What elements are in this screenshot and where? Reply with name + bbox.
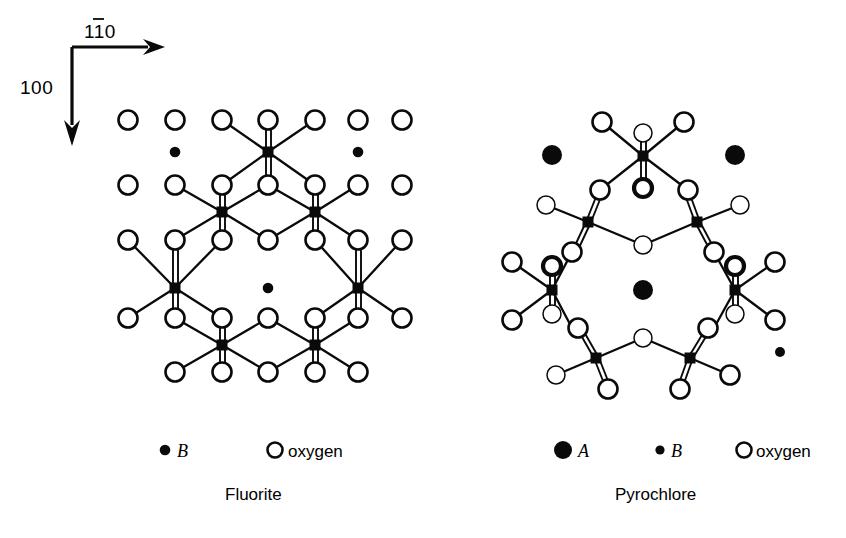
oxygen-atom bbox=[259, 231, 278, 250]
axis-indicator: 110 100 bbox=[20, 19, 165, 146]
b-cation-site bbox=[730, 285, 741, 296]
oxygen-atom bbox=[306, 363, 325, 382]
oxygen-atom bbox=[213, 176, 232, 195]
oxygen-atom bbox=[306, 176, 325, 195]
oxygen-atom bbox=[721, 366, 740, 385]
oxygen-atom bbox=[393, 176, 412, 195]
oxygen-atom-upper bbox=[543, 257, 561, 275]
b-cation-site bbox=[217, 340, 228, 351]
a-cation-site bbox=[542, 145, 562, 165]
oxygen-atom bbox=[213, 111, 232, 130]
oxygen-atom-lower bbox=[726, 305, 744, 323]
oxygen-atom bbox=[503, 253, 522, 272]
oxygen-atom bbox=[306, 111, 325, 130]
legend-a-label: A bbox=[577, 441, 590, 461]
oxygen-atom bbox=[349, 176, 368, 195]
b-cation-site-isolated bbox=[353, 147, 364, 158]
oxygen-atom bbox=[503, 311, 522, 330]
oxygen-atom bbox=[349, 363, 368, 382]
axis-vertical-label: 100 bbox=[20, 77, 53, 98]
oxygen-atom bbox=[259, 176, 278, 195]
pyrochlore-structure bbox=[503, 113, 786, 399]
oxygen-atom bbox=[593, 113, 612, 132]
oxygen-atom bbox=[671, 380, 690, 399]
b-cation-site bbox=[170, 283, 181, 294]
legend-oxygen-label: oxygen bbox=[756, 442, 811, 461]
b-cation-site-isolated bbox=[775, 347, 785, 357]
b-cation-site bbox=[353, 283, 364, 294]
oxygen-atom bbox=[213, 363, 232, 382]
oxygen-atom bbox=[259, 111, 278, 130]
legend-b-dot-icon bbox=[160, 445, 171, 456]
oxygen-atom-lower bbox=[634, 179, 652, 197]
legend-b-label: B bbox=[177, 441, 188, 461]
oxygen-atom bbox=[349, 231, 368, 250]
axis-horizontal-label: 110 bbox=[84, 21, 116, 42]
oxygen-atom bbox=[119, 176, 138, 195]
oxygen-atom bbox=[166, 231, 185, 250]
oxygen-atom bbox=[166, 363, 185, 382]
b-cation-site bbox=[638, 151, 649, 162]
b-cation-site bbox=[217, 207, 228, 218]
oxygen-atom bbox=[766, 253, 785, 272]
oxygen-atom-upper bbox=[726, 257, 744, 275]
pyrochlore-a-sites bbox=[542, 145, 745, 300]
fluorite-structure bbox=[119, 111, 412, 382]
b-cation-site-isolated bbox=[263, 283, 274, 294]
legend-oxygen-circle-icon bbox=[268, 443, 283, 458]
oxygen-atom bbox=[731, 196, 749, 214]
oxygen-atom bbox=[213, 309, 232, 328]
legend-oxygen-circle-icon bbox=[737, 443, 752, 458]
oxygen-atom bbox=[393, 309, 412, 328]
oxygen-atom-lower bbox=[543, 305, 561, 323]
b-cation-site bbox=[310, 340, 321, 351]
oxygen-atom bbox=[306, 309, 325, 328]
oxygen-atom bbox=[679, 181, 698, 200]
b-cation-site bbox=[591, 353, 602, 364]
oxygen-atom-central bbox=[634, 236, 652, 254]
oxygen-atom bbox=[349, 111, 368, 130]
oxygen-atom bbox=[166, 111, 185, 130]
legend-oxygen-label: oxygen bbox=[288, 442, 343, 461]
oxygen-atom bbox=[563, 243, 582, 262]
oxygen-atom bbox=[569, 319, 588, 338]
fluorite-caption: Fluorite bbox=[225, 485, 282, 504]
oxygen-atom bbox=[166, 309, 185, 328]
a-cation-site bbox=[725, 145, 745, 165]
oxygen-atom bbox=[349, 309, 368, 328]
b-cation-site bbox=[547, 285, 558, 296]
structure-diagram: 110 100 bbox=[0, 0, 846, 538]
oxygen-atom-upper bbox=[634, 124, 652, 142]
b-cation-site bbox=[692, 217, 703, 228]
fluorite-legend: B oxygen Fluorite bbox=[160, 441, 343, 504]
b-cation-site bbox=[263, 147, 274, 158]
legend-b-label: B bbox=[671, 441, 682, 461]
oxygen-atom-central bbox=[634, 329, 652, 347]
oxygen-atom bbox=[393, 231, 412, 250]
figure-canvas: 110 100 bbox=[0, 0, 846, 538]
oxygen-atom bbox=[166, 176, 185, 195]
pyrochlore-caption: Pyrochlore bbox=[615, 485, 696, 504]
b-cation-site bbox=[583, 217, 594, 228]
a-cation-site bbox=[633, 280, 653, 300]
oxygen-atom bbox=[766, 311, 785, 330]
oxygen-atom bbox=[259, 309, 278, 328]
oxygen-atom bbox=[537, 196, 555, 214]
b-cation-site bbox=[310, 207, 321, 218]
oxygen-atom bbox=[393, 111, 412, 130]
pyrochlore-legend: A B oxygen Pyrochlore bbox=[554, 441, 811, 504]
oxygen-atom bbox=[119, 231, 138, 250]
oxygen-atom bbox=[119, 309, 138, 328]
oxygen-atom bbox=[699, 319, 718, 338]
oxygen-atom bbox=[306, 231, 325, 250]
oxygen-atom bbox=[599, 380, 618, 399]
oxygen-atom bbox=[705, 243, 724, 262]
b-cation-site bbox=[685, 353, 696, 364]
legend-a-dot-icon bbox=[554, 441, 572, 459]
b-cation-site-isolated bbox=[170, 147, 181, 158]
oxygen-atom bbox=[675, 113, 694, 132]
oxygen-atom bbox=[259, 363, 278, 382]
oxygen-atom bbox=[213, 231, 232, 250]
legend-b-dot-icon bbox=[655, 445, 664, 454]
oxygen-atom bbox=[591, 181, 610, 200]
